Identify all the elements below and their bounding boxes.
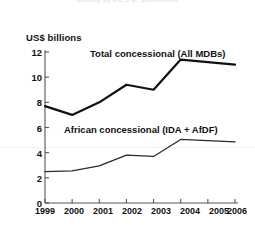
x-axis-ticks: [45, 199, 235, 203]
series-line-total-concessional: [45, 60, 235, 115]
series-line-african-concessional: [45, 139, 235, 171]
chart-figure: lending by the 5 yr, 2003–2006 US$ billi…: [0, 0, 255, 238]
y-axis-ticks: [45, 52, 49, 203]
plot-area: [0, 0, 255, 238]
